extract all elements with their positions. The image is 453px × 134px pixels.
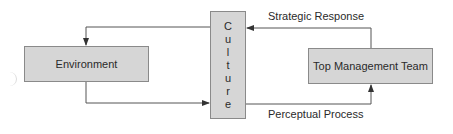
culture-letter: e — [225, 98, 231, 111]
environment-label: Environment — [56, 58, 118, 70]
culture-letter: u — [225, 72, 231, 85]
culture-letter: l — [227, 46, 229, 59]
strategic-response-label: Strategic Response — [268, 10, 364, 22]
culture-letter: C — [224, 20, 232, 33]
culture-letter: t — [226, 59, 229, 72]
culture-box: C u l t u r e — [210, 11, 246, 119]
top-management-team-box: Top Management Team — [308, 48, 433, 84]
culture-letter: u — [225, 33, 231, 46]
environment-box: Environment — [24, 46, 149, 82]
top-management-team-label: Top Management Team — [313, 60, 428, 72]
culture-letter: r — [226, 85, 230, 98]
perceptual-process-label: Perceptual Process — [268, 108, 363, 120]
